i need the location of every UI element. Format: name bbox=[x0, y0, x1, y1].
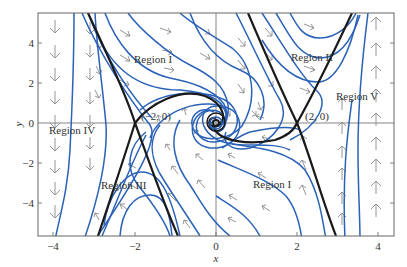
equilibrium-label-left: (−2, 0) bbox=[141, 110, 171, 123]
region-label-2: Region II bbox=[291, 51, 333, 63]
y-tick-label: 4 bbox=[29, 37, 35, 49]
y-tick-labels: 4 2 0 −2 −4 bbox=[22, 37, 34, 209]
region-label-3: Region III bbox=[101, 179, 147, 191]
x-tick-label: 2 bbox=[294, 240, 300, 252]
y-tick-label: 2 bbox=[29, 77, 35, 89]
x-tick-label: −4 bbox=[47, 240, 59, 252]
y-tick-label: −2 bbox=[22, 157, 34, 169]
region-label-5: Region V bbox=[336, 90, 378, 102]
x-tick-labels: −4 −2 0 2 4 bbox=[47, 240, 381, 252]
x-tick-label: −2 bbox=[129, 240, 141, 252]
equilibrium-label-right: (2, 0) bbox=[305, 110, 329, 123]
region-label-1-top: Region I bbox=[134, 53, 173, 65]
y-axis-label: y bbox=[12, 121, 24, 127]
separatrix-right-stable bbox=[248, 13, 336, 236]
y-tick-label: 0 bbox=[29, 117, 35, 129]
y-tick-label: −4 bbox=[22, 197, 34, 209]
region-label-4: Region IV bbox=[49, 124, 95, 136]
x-axis-label: x bbox=[213, 252, 219, 264]
phase-portrait-chart: −4 −2 0 2 4 4 2 0 −2 −4 x y Region I Reg… bbox=[0, 0, 407, 267]
x-tick-label: 4 bbox=[375, 240, 381, 252]
region-label-1-bottom: Region I bbox=[253, 178, 292, 190]
x-tick-label: 0 bbox=[213, 240, 219, 252]
